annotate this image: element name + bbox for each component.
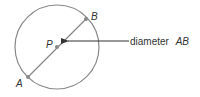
point-b: [84, 17, 88, 21]
label-b: B: [91, 11, 98, 22]
point-a: [26, 75, 30, 79]
annotation-ref: AB: [175, 36, 190, 47]
label-p: P: [46, 39, 53, 50]
annotation-word: diameter: [130, 36, 170, 47]
point-p-center: [55, 45, 59, 49]
label-a: A: [15, 78, 23, 89]
annotation-text: diameter AB: [130, 36, 189, 47]
diameter-diagram: A P B diameter AB: [0, 0, 200, 97]
